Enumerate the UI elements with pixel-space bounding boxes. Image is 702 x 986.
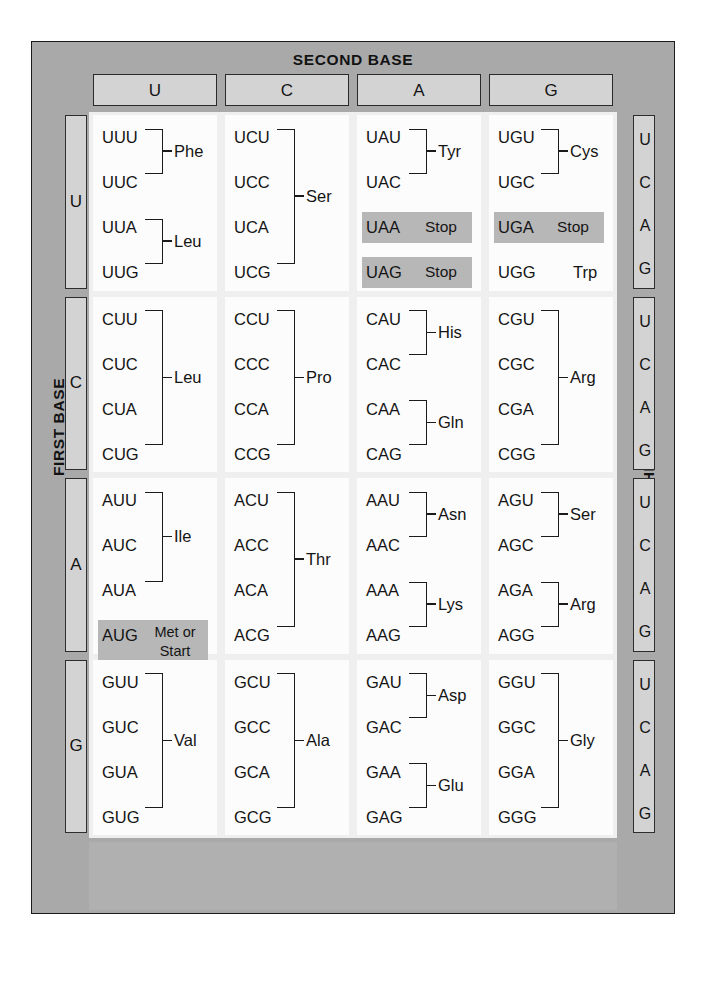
amino-acid-label-pro: Pro <box>306 355 332 400</box>
codon-group-bracket <box>409 400 427 445</box>
amino-acid-label-asn: Asn <box>438 492 466 537</box>
bracket-stem <box>163 240 172 242</box>
codon-cell-ac: ACUACCACAACGThr <box>225 478 349 654</box>
codon-cell-au: AUUAUCAUAIleAUGMet orStart <box>93 478 217 654</box>
first-base-box-a: A <box>65 478 87 652</box>
codon-group-bracket <box>541 492 559 537</box>
column-header-u: U <box>93 74 217 106</box>
third-base-letter: G <box>634 791 656 836</box>
codon-ugg: UGG <box>498 250 536 295</box>
codon-group-bracket <box>145 673 163 808</box>
codon-cga: CGA <box>498 387 534 432</box>
codon-aau: AAU <box>366 478 400 523</box>
codon-uuc: UUC <box>102 160 138 205</box>
codon-uua: UUA <box>102 205 137 250</box>
codon-cuu: CUU <box>102 297 138 342</box>
third-base-letter: C <box>634 160 656 205</box>
column-header-c: C <box>225 74 349 106</box>
amino-acid-label-tyr: Tyr <box>438 129 461 174</box>
codon-cag: CAG <box>366 432 402 477</box>
third-base-box-row-c: UCAG <box>633 297 655 471</box>
third-base-letter: G <box>634 246 656 291</box>
codon-gcu: GCU <box>234 660 271 705</box>
codon-uag: UAG <box>366 250 402 295</box>
first-base-letter: C <box>70 373 82 393</box>
codon-cell-uc: UCUUCCUCAUCGSer <box>225 115 349 291</box>
codon-ccg: CCG <box>234 432 271 477</box>
codon-grid: UUUUUCPheUUAUUGLeuUCUUCCUCAUCGSerUAUUACT… <box>89 112 617 838</box>
codon-aac: AAC <box>366 523 400 568</box>
codon-group-bracket <box>277 310 295 445</box>
third-base-letter: C <box>634 705 656 750</box>
third-base-letter: A <box>634 203 656 248</box>
amino-acid-label-phe: Phe <box>174 129 203 174</box>
amino-acid-label-lys: Lys <box>438 582 463 627</box>
amino-acid-label-gln: Gln <box>438 400 464 445</box>
codon-group-bracket <box>409 582 427 627</box>
start-label-line1: Met or <box>145 623 205 642</box>
codon-group-bracket <box>409 673 427 718</box>
third-base-letter: U <box>634 662 656 707</box>
codon-gau: GAU <box>366 660 402 705</box>
codon-aug: AUG <box>102 613 138 658</box>
third-base-letter: C <box>634 342 656 387</box>
codon-guc: GUC <box>102 705 139 750</box>
codon-gac: GAC <box>366 705 402 750</box>
codon-agu: AGU <box>498 478 534 523</box>
codon-gcc: GCC <box>234 705 271 750</box>
amino-acid-label-thr: Thr <box>306 537 331 582</box>
codon-uug: UUG <box>102 250 139 295</box>
codon-cua: CUA <box>102 387 137 432</box>
codon-cgg: CGG <box>498 432 536 477</box>
amino-acid-label-arg: Arg <box>570 355 596 400</box>
codon-group-bracket <box>541 129 559 174</box>
codon-cuc: CUC <box>102 342 138 387</box>
amino-acid-label-ala: Ala <box>306 718 330 763</box>
codon-group-bracket <box>541 673 559 808</box>
bracket-stem <box>163 740 172 742</box>
amino-acid-label-glu: Glu <box>438 763 464 808</box>
codon-ggg: GGG <box>498 795 537 840</box>
codon-gga: GGA <box>498 750 535 795</box>
amino-acid-label-gly: Gly <box>570 718 595 763</box>
codon-gug: GUG <box>102 795 140 840</box>
codon-ccu: CCU <box>234 297 270 342</box>
codon-ugc: UGC <box>498 160 535 205</box>
codon-aga: AGA <box>498 568 533 613</box>
bracket-stem <box>295 195 304 197</box>
codon-group-bracket <box>145 129 163 174</box>
codon-caa: CAA <box>366 387 400 432</box>
codon-cgc: CGC <box>498 342 535 387</box>
bracket-stem <box>427 785 436 787</box>
codon-cell-gc: GCUGCCGCAGCGAla <box>225 660 349 836</box>
codon-group-bracket <box>145 310 163 445</box>
codon-cell-aa: AAUAACAsnAAAAAGLys <box>357 478 481 654</box>
codon-cell-gg: GGUGGCGGAGGGGly <box>489 660 613 836</box>
codon-ugu: UGU <box>498 115 535 160</box>
codon-aca: ACA <box>234 568 268 613</box>
bracket-stem <box>427 150 436 152</box>
column-header-a: A <box>357 74 481 106</box>
first-base-box-u: U <box>65 115 87 289</box>
footer-strip <box>89 842 617 910</box>
codon-group-bracket <box>277 673 295 808</box>
codon-cug: CUG <box>102 432 139 477</box>
amino-acid-label-asp: Asp <box>438 673 466 718</box>
amino-acid-label-ser: Ser <box>570 492 596 537</box>
codon-cau: CAU <box>366 297 401 342</box>
second-base-title: SECOND BASE <box>89 46 617 73</box>
start-label-line2: Start <box>145 642 205 661</box>
codon-ccc: CCC <box>234 342 270 387</box>
first-base-letter: A <box>70 555 81 575</box>
bracket-stem <box>295 377 304 379</box>
bracket-stem <box>427 422 436 424</box>
bracket-stem <box>427 513 436 515</box>
codon-group-bracket <box>541 310 559 445</box>
codon-gag: GAG <box>366 795 403 840</box>
amino-acid-label-arg: Arg <box>570 582 596 627</box>
codon-group-bracket <box>409 310 427 355</box>
bracket-stem <box>163 377 172 379</box>
third-base-letter: U <box>634 299 656 344</box>
codon-ucg: UCG <box>234 250 271 295</box>
bracket-stem <box>295 558 304 560</box>
